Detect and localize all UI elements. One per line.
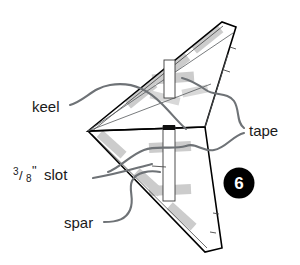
label-slot-word: slot [44, 166, 68, 183]
label-slot-unit: " [32, 163, 37, 178]
tick-mark [230, 47, 236, 49]
label-slot-slash: / [19, 168, 23, 183]
label-tape: tape [249, 122, 278, 139]
slot-end-cap [163, 125, 175, 130]
label-spar: spar [64, 214, 93, 231]
diagram-page: keel 3 / 8 " slot spar tape 6 [0, 0, 300, 265]
tick-mark [224, 70, 230, 72]
step-badge-number: 6 [234, 174, 243, 193]
label-slot-group: 3 / 8 " slot [13, 163, 68, 184]
label-keel: keel [32, 98, 60, 115]
step-badge: 6 [224, 168, 255, 199]
upper-spar-slot [164, 60, 175, 98]
lower-spar-slot [163, 126, 175, 201]
glider-diagram: keel 3 / 8 " slot spar tape 6 [0, 0, 300, 265]
